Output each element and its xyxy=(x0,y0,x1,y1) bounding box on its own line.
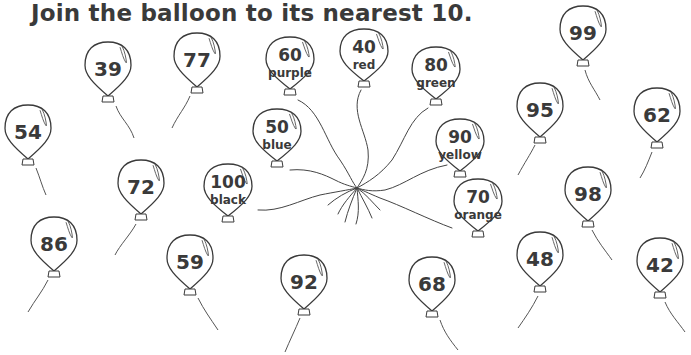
target-balloon-red[interactable]: 40red xyxy=(338,27,390,95)
number-balloon-value: 92 xyxy=(279,270,329,294)
target-balloon-black[interactable]: 100black xyxy=(202,162,254,230)
target-balloon-value: 60 xyxy=(264,45,316,65)
number-balloon-39[interactable]: 39 xyxy=(83,40,133,110)
number-balloon-54[interactable]: 54 xyxy=(3,103,53,173)
number-balloon-value: 95 xyxy=(515,98,565,122)
target-balloon-color-label: blue xyxy=(251,138,303,152)
number-balloon-value: 72 xyxy=(116,175,166,199)
number-balloon-value: 68 xyxy=(407,272,457,296)
target-balloon-blue[interactable]: 50blue xyxy=(251,107,303,175)
target-balloon-value: 50 xyxy=(251,117,303,137)
target-balloon-color-label: purple xyxy=(264,66,316,80)
target-balloon-orange[interactable]: 70orange xyxy=(452,177,504,245)
target-balloon-value: 90 xyxy=(434,127,486,147)
number-balloon-72[interactable]: 72 xyxy=(116,158,166,228)
number-balloon-42[interactable]: 42 xyxy=(635,236,685,306)
number-balloon-92[interactable]: 92 xyxy=(279,253,329,323)
target-balloon-color-label: black xyxy=(202,193,254,207)
target-balloon-color-label: orange xyxy=(452,208,504,222)
number-balloon-86[interactable]: 86 xyxy=(29,215,79,285)
target-balloon-value: 100 xyxy=(202,172,254,192)
number-balloon-value: 59 xyxy=(165,250,215,274)
number-balloon-value: 77 xyxy=(172,48,222,72)
target-balloon-color-label: green xyxy=(410,76,462,90)
target-balloon-color-label: red xyxy=(338,58,390,72)
number-balloon-value: 48 xyxy=(515,247,565,271)
number-balloon-48[interactable]: 48 xyxy=(515,230,565,300)
number-balloon-77[interactable]: 77 xyxy=(172,31,222,101)
target-balloon-yellow[interactable]: 90yellow xyxy=(434,117,486,185)
number-balloon-value: 99 xyxy=(558,21,608,45)
target-balloon-value: 70 xyxy=(452,187,504,207)
target-balloon-purple[interactable]: 60purple xyxy=(264,35,316,103)
target-balloon-color-label: yellow xyxy=(434,148,486,162)
number-balloon-98[interactable]: 98 xyxy=(563,165,613,235)
target-balloon-value: 80 xyxy=(410,55,462,75)
number-balloon-62[interactable]: 62 xyxy=(632,86,682,156)
number-balloon-value: 62 xyxy=(632,103,682,127)
number-balloon-value: 54 xyxy=(3,120,53,144)
number-balloon-95[interactable]: 95 xyxy=(515,81,565,151)
number-balloon-59[interactable]: 59 xyxy=(165,233,215,303)
number-balloon-value: 98 xyxy=(563,182,613,206)
number-balloon-99[interactable]: 99 xyxy=(558,4,608,74)
target-balloon-value: 40 xyxy=(338,37,390,57)
target-balloon-green[interactable]: 80green xyxy=(410,45,462,113)
number-balloon-value: 86 xyxy=(29,232,79,256)
number-balloon-value: 42 xyxy=(635,253,685,277)
number-balloon-value: 39 xyxy=(83,57,133,81)
number-balloon-68[interactable]: 68 xyxy=(407,255,457,325)
